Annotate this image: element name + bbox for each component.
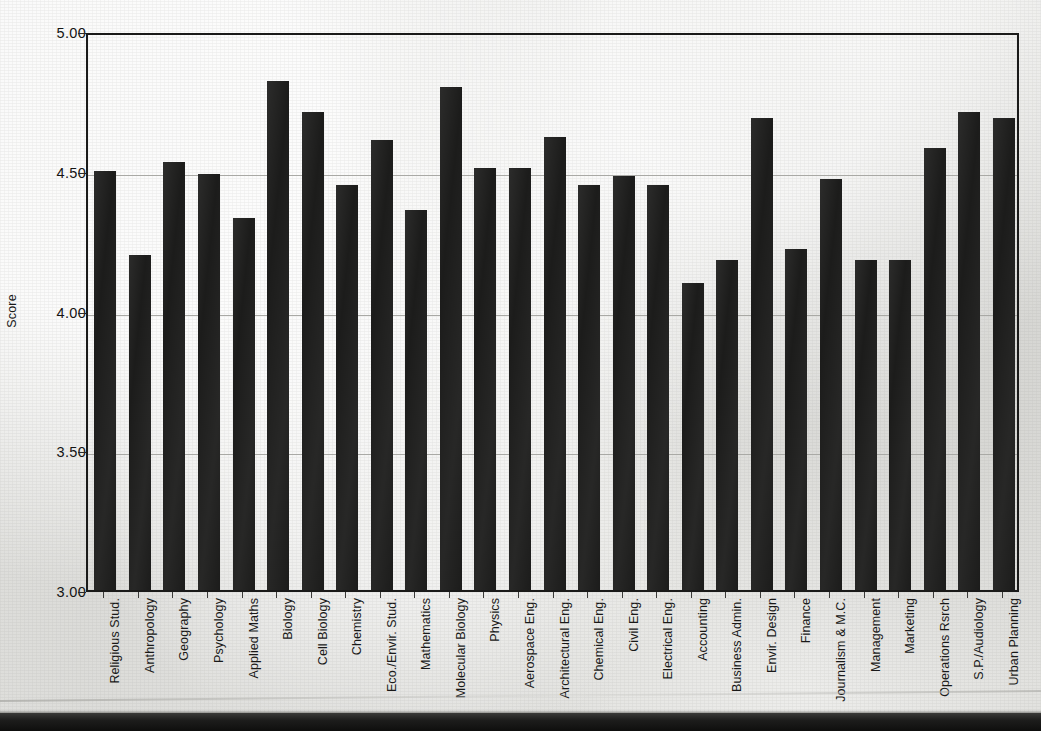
x-tick-mark [933, 592, 934, 598]
bar [233, 218, 255, 590]
x-tick-mark [898, 592, 899, 598]
y-tick-mark [78, 173, 86, 174]
bar [405, 210, 427, 590]
x-tick-label: Electrical Eng. [661, 598, 675, 679]
bar [578, 185, 600, 590]
bar [198, 174, 220, 590]
x-tick-label: Architectural Eng. [558, 598, 572, 698]
x-tick-label: Chemical Eng. [592, 598, 606, 681]
x-tick-label: Aerospace Eng. [523, 598, 537, 688]
chart-page: Score 5.004.504.003.503.00 Religious Stu… [0, 0, 1041, 731]
y-axis: Score 5.004.504.003.503.00 [0, 0, 86, 731]
plot-area [86, 33, 1019, 592]
x-tick-mark [1002, 592, 1003, 598]
x-tick-mark [311, 592, 312, 598]
x-tick-mark [794, 592, 795, 598]
x-tick-label: Applied Maths [247, 598, 261, 679]
bar [509, 168, 531, 590]
x-tick-mark [103, 592, 104, 598]
x-tick-label: Mathematics [419, 598, 433, 670]
x-tick-mark [760, 592, 761, 598]
x-tick-label: Civil Eng. [627, 598, 641, 652]
x-tick-mark [207, 592, 208, 598]
bar [958, 112, 980, 590]
x-tick-label: S.P./Audiology [972, 598, 986, 680]
y-tick-mark [78, 33, 86, 34]
bar [440, 87, 462, 590]
x-tick-label: Envir. Design [765, 598, 779, 673]
x-tick-mark [345, 592, 346, 598]
bar [785, 249, 807, 590]
bar [924, 148, 946, 590]
x-tick-mark [276, 592, 277, 598]
x-tick-label: Accounting [696, 598, 710, 661]
x-tick-label: Physics [488, 598, 502, 642]
bar [855, 260, 877, 590]
x-tick-mark [138, 592, 139, 598]
x-tick-mark [725, 592, 726, 598]
x-tick-mark [829, 592, 830, 598]
x-tick-mark [656, 592, 657, 598]
x-tick-mark [691, 592, 692, 598]
bar [613, 176, 635, 590]
x-tick-label: Finance [799, 598, 813, 643]
y-tick-mark [78, 313, 86, 314]
x-tick-mark [380, 592, 381, 598]
x-tick-mark [242, 592, 243, 598]
bar [267, 81, 289, 590]
y-tick-mark [78, 592, 86, 593]
bar [889, 260, 911, 590]
bar [336, 185, 358, 590]
x-tick-label: Chemistry [350, 598, 364, 655]
x-tick-mark [172, 592, 173, 598]
x-tick-label: Religious Stud. [108, 598, 122, 684]
x-tick-label: Operations Rsrch [938, 598, 952, 697]
x-tick-label: Urban Planning [1007, 598, 1021, 686]
bar [371, 140, 393, 590]
bar [94, 171, 116, 590]
bar [751, 118, 773, 590]
x-tick-label: Geography [177, 598, 191, 661]
bar [682, 283, 704, 590]
x-tick-mark [967, 592, 968, 598]
bar [544, 137, 566, 590]
bar [129, 255, 151, 590]
x-tick-label: Journalism & M.C. [834, 598, 848, 702]
x-tick-mark [483, 592, 484, 598]
x-tick-label: Psychology [212, 598, 226, 663]
x-tick-mark [587, 592, 588, 598]
bar [163, 162, 185, 590]
x-tick-mark [622, 592, 623, 598]
x-tick-label: Cell Biology [316, 598, 330, 665]
y-axis-title: Score [5, 294, 19, 328]
x-tick-mark [518, 592, 519, 598]
x-tick-label: Molecular Biology [454, 598, 468, 698]
x-axis-labels: Religious Stud.AnthropologyGeographyPsyc… [86, 598, 1019, 728]
x-tick-mark [864, 592, 865, 598]
y-tick-mark [78, 452, 86, 453]
bar [474, 168, 496, 590]
x-tick-label: Business Admin. [730, 598, 744, 692]
x-tick-label: Anthropology [143, 598, 157, 673]
x-tick-label: Management [869, 598, 883, 672]
x-tick-mark [449, 592, 450, 598]
x-tick-mark [553, 592, 554, 598]
x-tick-mark [414, 592, 415, 598]
bar [302, 112, 324, 590]
x-tick-label: Marketing [903, 598, 917, 654]
bar [993, 118, 1015, 590]
bar [647, 185, 669, 590]
bar [820, 179, 842, 590]
x-tick-label: Eco./Envir. Stud. [385, 598, 399, 692]
bar [716, 260, 738, 590]
x-tick-label: Biology [281, 598, 295, 640]
